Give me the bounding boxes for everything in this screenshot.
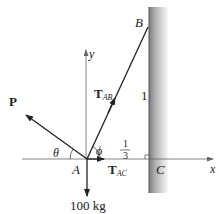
label-point-a: A [71,162,80,177]
label-slope-rise: 1 [141,88,148,103]
label-point-b: B [135,15,143,30]
svg-text:1: 1 [123,138,128,149]
label-slope-run: 1 3 [120,138,130,161]
label-y-axis: y [88,47,95,61]
label-theta: θ [53,146,59,160]
label-phi: ϕ [96,144,102,158]
free-body-diagram: B y P TAB 1 1 3 θ ϕ A TAC C x 100 kg [0,0,221,214]
right-angle-mark [145,155,149,159]
label-point-c: C [156,162,165,177]
svg-text:3: 3 [123,150,128,161]
label-x-axis: x [209,162,216,176]
label-weight: 100 kg [70,198,106,213]
label-t-ac: TAC [108,162,128,178]
theta-arc [70,149,73,159]
label-t-ab: TAB [94,86,113,102]
label-p: P [9,94,17,109]
